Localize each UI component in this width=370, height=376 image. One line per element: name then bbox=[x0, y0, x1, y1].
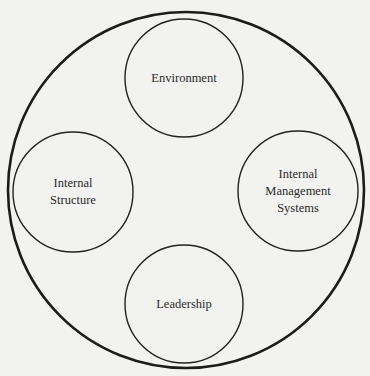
environment-label: Environment bbox=[151, 70, 216, 87]
internal-structure-label-line-2: Structure bbox=[50, 192, 96, 209]
internal-management-systems-label-line-1: Internal bbox=[265, 166, 330, 183]
internal-structure-label: Internal Structure bbox=[50, 175, 96, 209]
leadership-label: Leadership bbox=[156, 296, 212, 313]
leadership-label-line-1: Leadership bbox=[156, 296, 212, 313]
internal-structure-label-line-1: Internal bbox=[50, 175, 96, 192]
internal-management-systems-label-line-3: Systems bbox=[265, 200, 330, 217]
environment-label-line-1: Environment bbox=[151, 70, 216, 87]
internal-management-systems-label-line-2: Management bbox=[265, 183, 330, 200]
internal-management-systems-label: Internal Management Systems bbox=[265, 166, 330, 217]
